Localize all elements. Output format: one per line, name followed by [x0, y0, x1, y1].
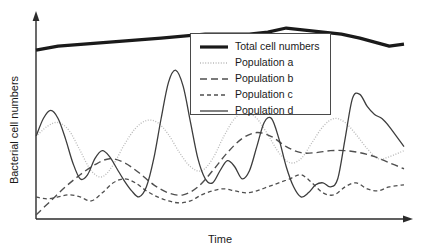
legend-label-population-a: Population a — [235, 56, 294, 68]
x-axis-arrow-icon — [403, 216, 413, 223]
series-line-population-c — [36, 175, 404, 203]
legend-label-population-d: Population d — [235, 104, 294, 116]
x-axis-title: Time — [208, 233, 232, 245]
chart-legend: Total cell numbersPopulation aPopulation… — [191, 34, 331, 117]
line-chart: Total cell numbersPopulation aPopulation… — [0, 0, 423, 250]
legend-label-population-b: Population b — [235, 72, 294, 84]
y-axis — [33, 11, 40, 219]
legend-label-total-cell-numbers: Total cell numbers — [235, 40, 320, 52]
chart-figure: Total cell numbersPopulation aPopulation… — [0, 0, 423, 250]
x-axis — [36, 216, 413, 223]
y-axis-arrow-icon — [33, 11, 40, 21]
legend-label-population-c: Population c — [235, 88, 293, 100]
y-axis-title: Bacterial cell numbers — [8, 75, 20, 184]
